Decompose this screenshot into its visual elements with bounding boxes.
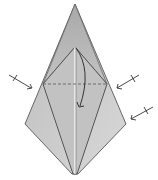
diagram-canvas (0, 0, 158, 180)
origami-diagram (0, 0, 158, 180)
fold-arrow-left-icon (9, 75, 32, 89)
fold-arrow-right-upper-icon (117, 75, 139, 89)
fold-arrow-right-lower-icon (131, 107, 153, 120)
